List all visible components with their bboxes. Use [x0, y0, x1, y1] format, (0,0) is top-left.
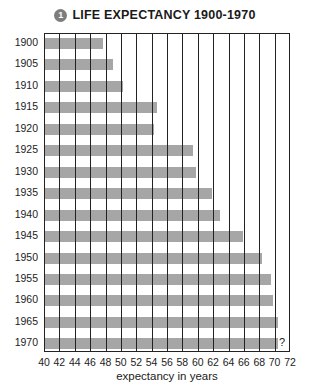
- bar-1955: [45, 274, 271, 285]
- bar-1935: [45, 188, 212, 199]
- gridline: [152, 34, 153, 351]
- bar-1940: [45, 210, 220, 221]
- number-badge-icon: 1: [54, 9, 67, 22]
- gridline: [121, 34, 122, 351]
- gridline: [106, 34, 107, 351]
- bar-1925: [45, 145, 193, 156]
- y-label-1900: 1900: [0, 36, 38, 48]
- gridline: [59, 34, 60, 351]
- annotation-question-mark: ?: [279, 336, 285, 348]
- y-label-1930: 1930: [0, 165, 38, 177]
- gridline: [213, 34, 214, 351]
- gridline: [229, 34, 230, 351]
- gridline: [198, 34, 199, 351]
- y-label-1935: 1935: [0, 186, 38, 198]
- x-tick-72: 72: [280, 356, 300, 368]
- y-label-1955: 1955: [0, 272, 38, 284]
- y-label-1905: 1905: [0, 57, 38, 69]
- gridline: [244, 34, 245, 351]
- y-label-1945: 1945: [0, 229, 38, 241]
- y-label-1920: 1920: [0, 122, 38, 134]
- gridline: [259, 34, 260, 351]
- gridline: [75, 34, 76, 351]
- y-label-1970: 1970: [0, 336, 38, 348]
- y-label-1950: 1950: [0, 251, 38, 263]
- y-label-1915: 1915: [0, 100, 38, 112]
- bar-1920: [45, 124, 154, 135]
- gridline: [182, 34, 183, 351]
- y-label-1960: 1960: [0, 293, 38, 305]
- chart-title: 1LIFE EXPECTANCY 1900-1970: [0, 8, 310, 22]
- y-label-1940: 1940: [0, 208, 38, 220]
- y-label-1925: 1925: [0, 143, 38, 155]
- y-label-1910: 1910: [0, 79, 38, 91]
- x-axis-label: expectancy in years: [44, 370, 290, 382]
- gridline: [136, 34, 137, 351]
- plot-area: [44, 33, 290, 352]
- bar-1910: [45, 81, 123, 92]
- gridline: [90, 34, 91, 351]
- y-label-1965: 1965: [0, 315, 38, 327]
- gridline: [167, 34, 168, 351]
- bar-1915: [45, 102, 157, 113]
- bar-1960: [45, 295, 273, 306]
- chart-title-text: LIFE EXPECTANCY 1900-1970: [72, 8, 255, 22]
- bar-1905: [45, 59, 113, 70]
- gridline: [275, 34, 276, 351]
